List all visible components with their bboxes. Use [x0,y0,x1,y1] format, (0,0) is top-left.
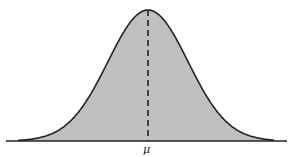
bell-curve-chart [0,0,293,157]
curve-area [18,10,274,141]
mean-label: μ [143,143,150,156]
